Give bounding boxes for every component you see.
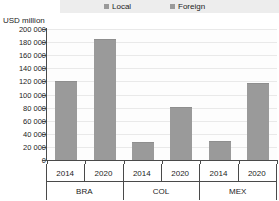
y-axis-tick-mark [42, 42, 46, 43]
bar-col-2014[interactable] [132, 142, 154, 160]
y-axis-tick-label: 100 000 [2, 90, 46, 99]
y-axis-tick-mark [42, 95, 46, 96]
legend-item-local[interactable]: Local [104, 1, 131, 12]
legend-item-label: Local [112, 2, 131, 11]
x-axis-separator [199, 164, 200, 182]
y-axis-line [46, 28, 47, 161]
y-axis-tick-mark [42, 108, 46, 109]
x-axis-year-label: 2020 [238, 164, 276, 182]
y-axis-tick-label: 40 000 [2, 129, 46, 138]
x-axis-group-label: BRA [46, 182, 123, 200]
y-axis-tick-label: 60 000 [2, 116, 46, 125]
y-axis-tick-label: 80 000 [2, 103, 46, 112]
legend-swatch-icon [170, 4, 175, 9]
legend-swatch-icon [104, 4, 109, 9]
bar-bra-2014[interactable] [55, 81, 77, 160]
x-axis-separator [199, 182, 200, 200]
y-axis-tick-mark [42, 55, 46, 56]
y-axis-tick-label: 120 000 [2, 77, 46, 86]
bar-bra-2020[interactable] [94, 39, 116, 160]
x-axis-separator [84, 164, 85, 182]
y-axis-tick-mark [42, 121, 46, 122]
y-axis-tick-label: 200 000 [2, 25, 46, 34]
y-axis-tick-label: 160 000 [2, 51, 46, 60]
x-axis-separator [46, 182, 47, 200]
chart-figure: Local Foreign USD million 200 000180 000… [0, 0, 279, 201]
x-axis-labels: 201420202014202020142020 BRACOLMEX [46, 164, 277, 200]
x-axis-separator [276, 164, 277, 182]
y-axis-tick-mark [42, 134, 46, 135]
x-axis-year-label: 2014 [199, 164, 237, 182]
x-axis-year-row: 201420202014202020142020 [46, 164, 277, 182]
bar-mex-2020[interactable] [247, 83, 269, 160]
y-axis-tick-label: 20 000 [2, 142, 46, 151]
x-axis-group-row: BRACOLMEX [46, 182, 277, 200]
y-axis-tick-label: 180 000 [2, 38, 46, 47]
chart-legend: Local Foreign [60, 0, 279, 13]
bar-mex-2014[interactable] [209, 141, 231, 160]
y-axis-tick-label: 140 000 [2, 64, 46, 73]
y-axis-tick-mark [42, 81, 46, 82]
x-axis-separator [276, 182, 277, 200]
x-axis-year-label: 2014 [123, 164, 161, 182]
bar-col-2020[interactable] [170, 107, 192, 160]
y-axis-tick-mark [42, 29, 46, 30]
x-axis-group-label: COL [123, 182, 200, 200]
x-axis-separator [123, 164, 124, 182]
x-axis-year-label: 2020 [84, 164, 122, 182]
x-axis-separator [238, 164, 239, 182]
y-axis-tick-mark [42, 160, 46, 161]
x-axis-separator [123, 182, 124, 200]
x-axis-year-label: 2020 [161, 164, 199, 182]
legend-item-foreign[interactable]: Foreign [170, 1, 205, 12]
x-axis-group-label: MEX [199, 182, 276, 200]
x-axis-separator [46, 164, 47, 182]
x-axis-tick-mark [277, 160, 278, 164]
x-axis-separator [161, 164, 162, 182]
y-axis-tick-mark [42, 147, 46, 148]
y-axis-tick-label: 0 [2, 156, 46, 165]
bars-layer [47, 29, 277, 160]
x-axis-year-label: 2014 [46, 164, 84, 182]
y-axis-tick-mark [42, 68, 46, 69]
legend-item-label: Foreign [178, 2, 205, 11]
